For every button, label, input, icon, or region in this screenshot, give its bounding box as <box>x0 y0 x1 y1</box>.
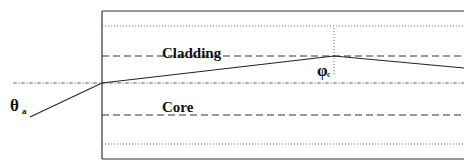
acceptance-angle-subscript: a <box>22 106 27 116</box>
fiber-diagram: Cladding Core θ a φ c <box>0 0 464 166</box>
cladding-label: Cladding <box>162 45 222 61</box>
acceptance-angle-label: θ <box>10 96 19 115</box>
core-label: Core <box>162 99 194 115</box>
light-ray <box>30 56 464 117</box>
critical-angle-subscript: c <box>327 70 331 79</box>
